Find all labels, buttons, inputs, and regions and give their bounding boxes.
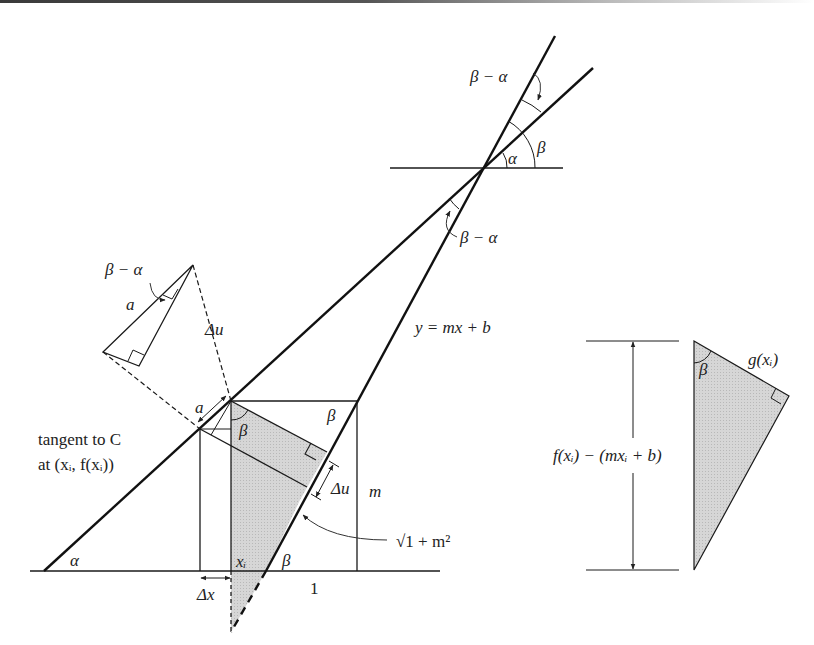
label-line-equation: y = mx + b bbox=[413, 318, 491, 337]
label-xi: xᵢ bbox=[235, 552, 246, 571]
label-delta-u-small: Δu bbox=[204, 320, 223, 339]
small-right-angle bbox=[128, 350, 144, 361]
delta-u-tick-2 bbox=[311, 494, 321, 500]
beta-minus-alpha-arc-mid bbox=[449, 198, 459, 209]
tangent-line bbox=[44, 68, 593, 571]
label-beta-minus-alpha-small: β − α bbox=[104, 260, 143, 279]
alpha-arc bbox=[503, 153, 507, 168]
dashed-connector-2 bbox=[103, 352, 200, 429]
label-tangent-line2: at (xᵢ, f(xᵢ)) bbox=[38, 455, 114, 474]
label-g-xi: g(xᵢ) bbox=[748, 350, 778, 369]
label-alpha-bottom: α bbox=[70, 551, 80, 570]
label-beta-minus-alpha-top: β − α bbox=[469, 67, 508, 86]
label-beta-shaded: β bbox=[238, 421, 248, 440]
label-sqrt-1-plus-m2: √1 + m² bbox=[396, 532, 450, 551]
label-right-beta: β bbox=[698, 360, 708, 379]
label-a-main: a bbox=[195, 398, 204, 417]
label-beta-bottom: β bbox=[281, 551, 291, 570]
label-a-small: a bbox=[126, 295, 135, 314]
beta-minus-alpha-arc-top bbox=[522, 100, 541, 112]
label-delta-x: Δx bbox=[196, 585, 215, 604]
small-diagonal bbox=[211, 401, 231, 435]
label-beta-minus-alpha-mid: β − α bbox=[459, 228, 498, 247]
sqrt-leader-arrow bbox=[303, 515, 387, 540]
label-one: 1 bbox=[310, 579, 319, 598]
label-beta-top: β bbox=[536, 138, 546, 157]
label-beta-box-top: β bbox=[326, 406, 336, 425]
geometry-diagram: β − α α β β − α β − α a Δu y = mx + b a … bbox=[0, 0, 814, 645]
label-delta-u-main: Δu bbox=[330, 479, 349, 498]
line-y-mx-b bbox=[266, 36, 555, 571]
delta-u-tick-1 bbox=[329, 461, 339, 467]
small-triangle bbox=[103, 265, 193, 366]
right-shaded-triangle bbox=[694, 341, 789, 570]
small-leader bbox=[150, 283, 165, 300]
label-vertical-dimension: f(xᵢ) − (mxᵢ + b) bbox=[553, 446, 662, 465]
label-m: m bbox=[369, 482, 381, 501]
label-alpha-top: α bbox=[508, 149, 518, 168]
label-tangent-line1: tangent to C bbox=[38, 430, 121, 449]
